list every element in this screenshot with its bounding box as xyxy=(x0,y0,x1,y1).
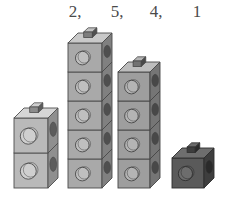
cube-side-socket xyxy=(50,122,57,136)
cube-side-socket xyxy=(152,161,159,173)
cube-stud-front xyxy=(133,61,141,67)
cube-side-socket xyxy=(152,132,159,144)
cube-side-socket xyxy=(104,132,111,144)
cube-towers-scene xyxy=(0,0,229,201)
cube-side-socket xyxy=(104,161,111,173)
towers-illustration xyxy=(0,0,229,201)
tower-2 xyxy=(68,28,112,188)
cube-side-socket xyxy=(50,157,57,171)
cube-side-socket xyxy=(104,74,111,86)
tower-3 xyxy=(118,57,160,188)
cube-stud-front xyxy=(187,147,195,153)
cube-stud-front xyxy=(30,107,39,113)
tower-1 xyxy=(14,103,58,188)
cube-stud-front xyxy=(84,32,93,38)
tower-4 xyxy=(172,143,214,188)
cube-side-socket xyxy=(104,103,111,115)
cube-side-socket xyxy=(152,103,159,115)
cube-side-socket xyxy=(104,45,111,57)
cube-side-socket xyxy=(206,161,213,174)
cube-side-socket xyxy=(152,74,159,86)
